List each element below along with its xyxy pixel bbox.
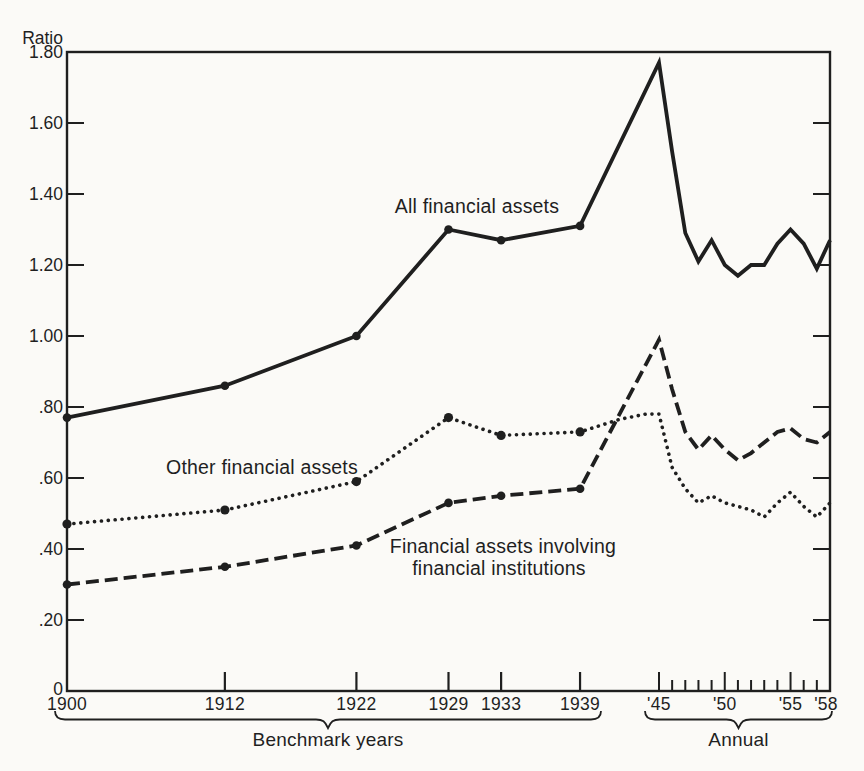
benchmark-marker-all-financial-assets-1922 bbox=[352, 332, 361, 341]
benchmark-years-label: Benchmark years bbox=[253, 729, 404, 750]
benchmark-marker-other-financial-assets-1900 bbox=[62, 520, 71, 529]
benchmark-marker-all-financial-assets-1900 bbox=[63, 413, 72, 422]
benchmark-marker-other-financial-assets-1912 bbox=[220, 505, 229, 514]
y-axis-tick-label: .60 bbox=[39, 468, 64, 488]
x-axis-year-label: 1922 bbox=[336, 694, 376, 714]
x-axis-year-label: 1939 bbox=[560, 694, 600, 714]
series-annotation-0: All financial assets bbox=[395, 195, 559, 217]
y-axis-tick-label: .80 bbox=[39, 397, 64, 417]
series-line-all-financial-assets bbox=[67, 63, 830, 418]
ratio-line-chart: 0.20.40.60.801.001.201.401.601.80Ratio19… bbox=[0, 0, 864, 771]
benchmark-marker-financial-assets-involving-financial-institutions-1929 bbox=[444, 499, 453, 508]
benchmark-marker-other-financial-assets-1922 bbox=[352, 477, 361, 486]
chart-canvas: 0.20.40.60.801.001.201.401.601.80Ratio19… bbox=[0, 0, 864, 771]
x-axis-year-label: 1912 bbox=[205, 694, 245, 714]
benchmark-marker-financial-assets-involving-financial-institutions-1900 bbox=[63, 580, 72, 589]
plot-frame bbox=[67, 52, 830, 691]
series-annotation-1: Other financial assets bbox=[166, 456, 358, 478]
benchmark-marker-other-financial-assets-1933 bbox=[497, 431, 506, 440]
x-axis-annual-label: '55 bbox=[779, 694, 803, 714]
y-axis-tick-label: .20 bbox=[39, 610, 64, 630]
annual-brace bbox=[645, 711, 832, 728]
x-axis-year-label: 1900 bbox=[47, 694, 87, 714]
benchmark-marker-all-financial-assets-1933 bbox=[497, 236, 506, 245]
benchmark-marker-financial-assets-involving-financial-institutions-1922 bbox=[352, 541, 361, 550]
benchmark-marker-financial-assets-involving-financial-institutions-1939 bbox=[576, 484, 585, 493]
benchmark-marker-all-financial-assets-1912 bbox=[221, 381, 230, 390]
x-axis-year-label: 1929 bbox=[428, 694, 468, 714]
benchmark-marker-other-financial-assets-1939 bbox=[576, 427, 585, 436]
benchmark-marker-other-financial-assets-1929 bbox=[444, 413, 453, 422]
benchmark-marker-all-financial-assets-1939 bbox=[576, 222, 585, 231]
x-axis-annual-label: '50 bbox=[713, 694, 737, 714]
series-annotation-2: Financial assets involving bbox=[390, 535, 616, 557]
x-axis-year-label: 1933 bbox=[481, 694, 521, 714]
benchmark-marker-financial-assets-involving-financial-institutions-1912 bbox=[221, 563, 230, 572]
x-axis-annual-label: '45 bbox=[647, 694, 671, 714]
series-annotation-3: financial institutions bbox=[412, 557, 586, 579]
y-axis-tick-label: 1.40 bbox=[29, 184, 63, 204]
scanned-book-page: 0.20.40.60.801.001.201.401.601.80Ratio19… bbox=[0, 0, 864, 771]
annual-label: Annual bbox=[708, 729, 768, 750]
y-axis-tick-label: 1.20 bbox=[29, 255, 63, 275]
benchmark-marker-all-financial-assets-1929 bbox=[444, 225, 453, 234]
x-axis-annual-label: '58 bbox=[814, 694, 838, 714]
y-axis-tick-label: 1.00 bbox=[29, 326, 63, 346]
y-axis-tick-label: 1.60 bbox=[29, 113, 63, 133]
y-axis-title: Ratio bbox=[22, 28, 63, 48]
benchmark-marker-financial-assets-involving-financial-institutions-1933 bbox=[497, 492, 506, 501]
y-axis-tick-label: .40 bbox=[39, 539, 64, 559]
